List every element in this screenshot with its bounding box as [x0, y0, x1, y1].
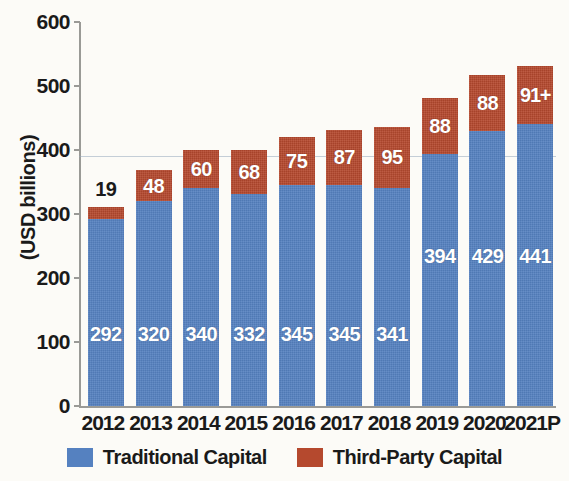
- bar-group[interactable]: 34060: [183, 150, 219, 406]
- bar-value-label-third-party-capital: 19: [88, 179, 124, 199]
- bar-group[interactable]: 39488: [422, 98, 458, 406]
- bar-value-label-traditional-capital: 345: [279, 324, 315, 344]
- y-tick-mark: [74, 405, 80, 407]
- plot-area: (USD billions) 0100200300400500600 29219…: [0, 0, 569, 481]
- bar-segment-traditional-capital[interactable]: [469, 131, 505, 406]
- bar-value-label-third-party-capital: 68: [231, 162, 267, 182]
- legend-swatch-blue: [67, 448, 93, 467]
- bar-segment-traditional-capital[interactable]: [422, 154, 458, 406]
- bar-value-label-traditional-capital: 441: [517, 246, 553, 266]
- bar-group[interactable]: 42988: [469, 75, 505, 406]
- bar-group[interactable]: 34587: [326, 130, 362, 406]
- chart-page: (USD billions) 0100200300400500600 29219…: [0, 0, 569, 481]
- y-tick-label: 300: [8, 203, 70, 224]
- bar-value-label-third-party-capital: 95: [374, 147, 410, 167]
- bar-value-label-traditional-capital: 345: [326, 324, 362, 344]
- legend-item[interactable]: Traditional Capital: [67, 446, 267, 469]
- bar-value-label-third-party-capital: 87: [326, 147, 362, 167]
- y-tick-label: 500: [8, 75, 70, 96]
- bar-segment-traditional-capital[interactable]: [136, 201, 172, 406]
- y-tick-label: 200: [8, 267, 70, 288]
- bar-value-label-third-party-capital: 88: [469, 93, 505, 113]
- bar-segment-traditional-capital[interactable]: [279, 185, 315, 406]
- legend-label: Traditional Capital: [103, 446, 267, 469]
- x-axis-line: [79, 406, 556, 408]
- legend-label: Third-Party Capital: [333, 446, 502, 469]
- y-tick-label: 600: [8, 11, 70, 32]
- y-tick-label: 0: [8, 395, 70, 416]
- bar-value-label-third-party-capital: 48: [136, 176, 172, 196]
- bar-group[interactable]: 44191+: [517, 66, 553, 406]
- bar-segment-traditional-capital[interactable]: [374, 188, 410, 406]
- chart-legend: Traditional CapitalThird-Party Capital: [0, 446, 569, 469]
- bar-value-label-traditional-capital: 332: [231, 324, 267, 344]
- bar-value-label-traditional-capital: 292: [88, 324, 124, 344]
- bar-segment-third-party-capital[interactable]: [88, 207, 124, 219]
- legend-swatch-red: [297, 448, 323, 467]
- bar-segment-traditional-capital[interactable]: [88, 219, 124, 406]
- bar-value-label-third-party-capital: 60: [183, 159, 219, 179]
- bar-group[interactable]: 33268: [231, 150, 267, 406]
- y-axis-line: [79, 22, 81, 408]
- x-axis-label: 2021P: [504, 412, 560, 433]
- bar-segment-traditional-capital[interactable]: [326, 185, 362, 406]
- y-tick-label: 100: [8, 331, 70, 352]
- y-tick-mark: [74, 21, 80, 23]
- bar-group[interactable]: 29219: [88, 207, 124, 406]
- bar-value-label-third-party-capital: 91+: [517, 85, 553, 105]
- bar-group[interactable]: 34575: [279, 137, 315, 406]
- bar-value-label-traditional-capital: 340: [183, 324, 219, 344]
- y-tick-mark: [74, 277, 80, 279]
- y-tick-label: 400: [8, 139, 70, 160]
- bar-group[interactable]: 34195: [374, 127, 410, 406]
- bar-value-label-traditional-capital: 341: [374, 324, 410, 344]
- y-tick-mark: [74, 213, 80, 215]
- bar-value-label-traditional-capital: 394: [422, 246, 458, 266]
- bar-segment-traditional-capital[interactable]: [183, 188, 219, 406]
- bar-value-label-traditional-capital: 429: [469, 246, 505, 266]
- bar-value-label-third-party-capital: 88: [422, 116, 458, 136]
- y-tick-mark: [74, 85, 80, 87]
- y-tick-mark: [74, 149, 80, 151]
- bar-segment-traditional-capital[interactable]: [231, 194, 267, 406]
- y-tick-mark: [74, 341, 80, 343]
- bar-value-label-third-party-capital: 75: [279, 151, 315, 171]
- bar-group[interactable]: 32048: [136, 170, 172, 406]
- y-axis-title: (USD billions): [17, 108, 40, 288]
- bar-value-label-traditional-capital: 320: [136, 324, 172, 344]
- legend-item[interactable]: Third-Party Capital: [297, 446, 502, 469]
